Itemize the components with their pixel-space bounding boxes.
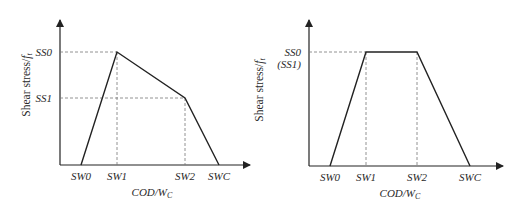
left-tick-sw2: SW2: [175, 170, 196, 182]
left-panel: SS0 SS1 SW0 SW1 SW2 SWC COD/WC Shear str…: [20, 20, 250, 200]
right-tick-sw0: SW0: [320, 171, 341, 183]
right-tick-ss0: SS0: [285, 46, 302, 58]
right-tick-ss1: (SS1): [277, 58, 301, 71]
diagram-canvas: SS0 SS1 SW0 SW1 SW2 SWC COD/WC Shear str…: [0, 0, 520, 213]
right-tick-sw2: SW2: [407, 171, 428, 183]
right-y-axis-title: Shear stress/ft: [253, 58, 267, 122]
left-tick-swc: SWC: [208, 170, 231, 182]
right-panel: SS0 (SS1) SW0 SW1 SW2 SWC COD/WC Shear s…: [253, 20, 503, 201]
right-x-axis-title: COD/WC: [380, 187, 421, 201]
left-y-axis-title: Shear stress/ft: [20, 53, 34, 117]
left-curve: [81, 52, 219, 165]
left-tick-sw0: SW0: [71, 170, 92, 182]
left-tick-sw1: SW1: [107, 170, 127, 182]
right-curve: [330, 52, 470, 166]
left-tick-ss1: SS1: [36, 92, 53, 104]
right-tick-sw1: SW1: [356, 171, 376, 183]
left-tick-ss0: SS0: [36, 46, 53, 58]
right-tick-swc: SWC: [459, 171, 482, 183]
left-x-axis-title: COD/WC: [132, 186, 173, 200]
